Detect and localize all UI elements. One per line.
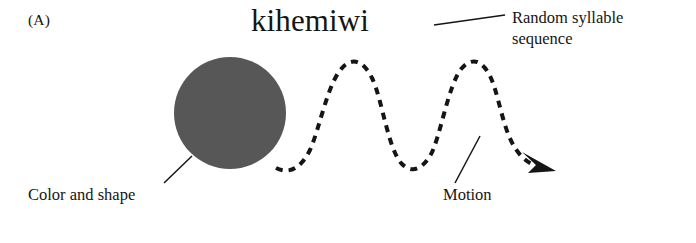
- stimulus-circle-shape: [174, 57, 286, 169]
- panel-label: (A): [28, 11, 50, 28]
- callout-color-and-shape: Color and shape: [28, 186, 135, 204]
- leader-line-motion: [455, 136, 480, 183]
- stimulus-word-label: kihemiwi: [251, 4, 369, 39]
- callout-syllable-line1: Random syllable: [512, 8, 623, 27]
- figure-panel-a: (A) kihemiwi Random syllablesequence Col…: [0, 0, 696, 243]
- leader-line-syllable: [434, 15, 505, 25]
- callout-motion: Motion: [443, 186, 492, 204]
- callout-random-syllable-sequence: Random syllablesequence: [512, 7, 623, 49]
- motion-wave-path: [276, 61, 532, 170]
- leader-line-color-shape: [164, 156, 192, 183]
- callout-syllable-line2: sequence: [512, 29, 572, 48]
